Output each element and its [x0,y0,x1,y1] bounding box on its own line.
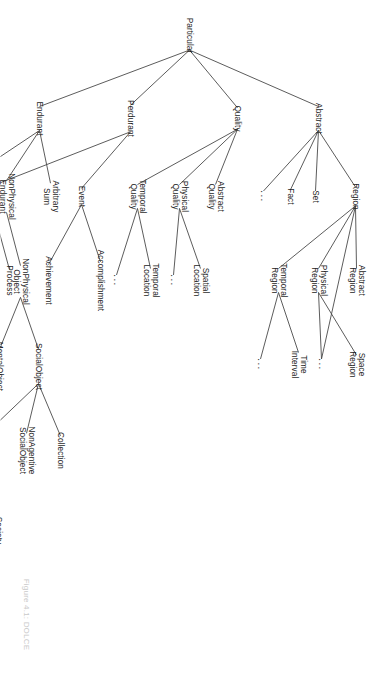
taxonomy-node-abstract-dots: ... [259,190,267,203]
taxonomy-edge [137,129,237,184]
taxonomy-node-time-interval: Time Interval [289,350,308,378]
taxonomy-node-mentalobject: MentalObject [0,341,4,390]
taxonomy-node-nonphysical-object: NonPhysical Object [11,258,30,305]
taxonomy-node-particular: Particular [184,17,193,53]
taxonomy-edge [39,50,189,106]
taxonomy-edge [48,204,81,264]
taxonomy-node-society: Society [0,516,3,544]
taxonomy-edge [173,208,179,274]
taxonomy-node-physical-region: Physical Region [309,264,328,295]
taxonomy-node-temporal-region: Temporal Region [269,263,288,297]
taxonomy-edge [263,130,318,190]
taxonomy-edge [355,205,356,268]
taxonomy-node-abstract-region: Abstract Region [347,265,366,296]
taxonomy-node-temporal-location: Temporal Location [141,263,160,297]
taxonomy-node-abstract: Abstract [313,103,322,134]
taxonomy-node-quality: Quality [232,105,241,131]
taxonomy-edge [26,383,38,433]
taxonomy-node-event: Event [76,185,85,206]
taxonomy-edge [290,130,318,189]
figure-container: ParticularAbstractQualityPerdurantEndura… [0,0,378,689]
taxonomy-node-temporal-region-dots: ... [256,358,264,371]
taxonomy-node-accomplishment: Accomplishment [95,249,104,310]
taxonomy-edge [38,383,60,435]
taxonomy-edge [137,208,150,268]
taxonomy-edge [179,208,200,268]
taxonomy-edge [189,50,237,108]
taxonomy-edge [39,130,50,183]
taxonomy-node-arbitrary-sum: Arbitrary Sum [41,180,60,212]
taxonomy-edge [318,130,355,187]
taxonomy-node-temporal-quality: Temporal Quality [128,179,147,213]
taxonomy-node-temporal-quality-dots: ... [112,274,120,287]
taxonomy-node-collection: Collection [55,432,64,469]
taxonomy-node-physical-quality-dots: ... [169,274,177,287]
taxonomy-node-endurant: Endurant [34,101,43,135]
taxonomy-edge [318,292,321,358]
taxonomy-node-achievement: Achievement [43,256,52,304]
taxonomy-edge [215,129,237,184]
taxonomy-node-nonagentive-socialobject: NonAgentive SocialObject [17,426,36,474]
taxonomy-edge [189,50,318,106]
taxonomy-node-socialobject: SocialObject [33,342,42,389]
taxonomy-edge [318,205,355,268]
taxonomy-edge [130,50,189,105]
figure-caption: Figure 4.1: DOLCE [22,578,31,649]
taxonomy-node-space-region: Space Region [347,351,366,378]
taxonomy-edge [318,292,356,355]
taxonomy-node-fact: Fact [285,188,294,204]
taxonomy-node-nonphysical-endurant: NonPhysical Endurant [0,173,15,220]
taxonomy-edge [260,292,278,358]
taxonomy-edge [278,292,298,352]
rotated-diagram-canvas: ParticularAbstractQualityPerdurantEndura… [0,0,378,689]
taxonomy-edge [315,130,318,190]
taxonomy-node-spatial-location: Spatial Location [191,264,210,296]
taxonomy-node-physical-quality: Physical Quality [170,180,189,211]
taxonomy-node-region-dots: ... [317,358,325,371]
taxonomy-edge [116,208,137,274]
taxonomy-edge [0,131,130,185]
taxonomy-edge [81,131,130,188]
taxonomy-node-region: Region [350,183,359,210]
taxonomy-node-set: Set [310,190,319,203]
taxonomy-node-abstract-quality: Abstract Quality [206,181,225,212]
taxonomy-node-perdurant: Perdurant [125,100,134,137]
